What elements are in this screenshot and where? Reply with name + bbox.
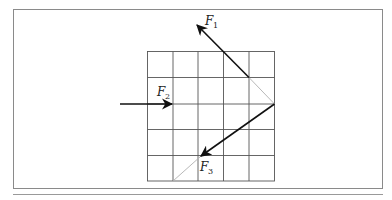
force-diagram: F 1 F 2 F 3 <box>0 0 392 200</box>
svg-text:3: 3 <box>208 167 213 176</box>
svg-text:2: 2 <box>165 92 170 101</box>
grid <box>148 52 275 182</box>
svg-text:1: 1 <box>213 21 218 30</box>
f3-guide-line <box>173 156 201 181</box>
f3-label: F 3 <box>199 160 213 176</box>
f3-arrow <box>201 104 275 156</box>
f1-label: F 1 <box>204 14 218 30</box>
f1-guide-line <box>249 78 275 105</box>
f2-label: F 2 <box>156 85 170 101</box>
